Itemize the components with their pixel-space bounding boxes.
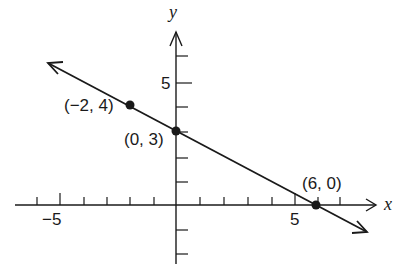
y-tick-label-5: 5	[161, 74, 170, 93]
line-graph: (−2, 4) (0, 3) (6, 0) −5 5 5 x y	[0, 0, 396, 269]
y-axis-label: y	[167, 2, 177, 22]
point-neg2-4	[126, 101, 135, 110]
point-label-b: (0, 3)	[124, 130, 164, 149]
x-axis-label: x	[383, 194, 392, 214]
x-tick-label-neg5: −5	[42, 210, 61, 229]
x-tick-label-5: 5	[290, 210, 299, 229]
y-ticks	[176, 56, 192, 254]
point-6-0	[312, 201, 321, 210]
x-ticks	[37, 193, 340, 205]
point-label-a: (−2, 4)	[64, 96, 114, 115]
x-axis	[15, 199, 376, 211]
point-label-c: (6, 0)	[302, 174, 342, 193]
y-axis	[170, 32, 182, 264]
point-0-3	[172, 127, 181, 136]
